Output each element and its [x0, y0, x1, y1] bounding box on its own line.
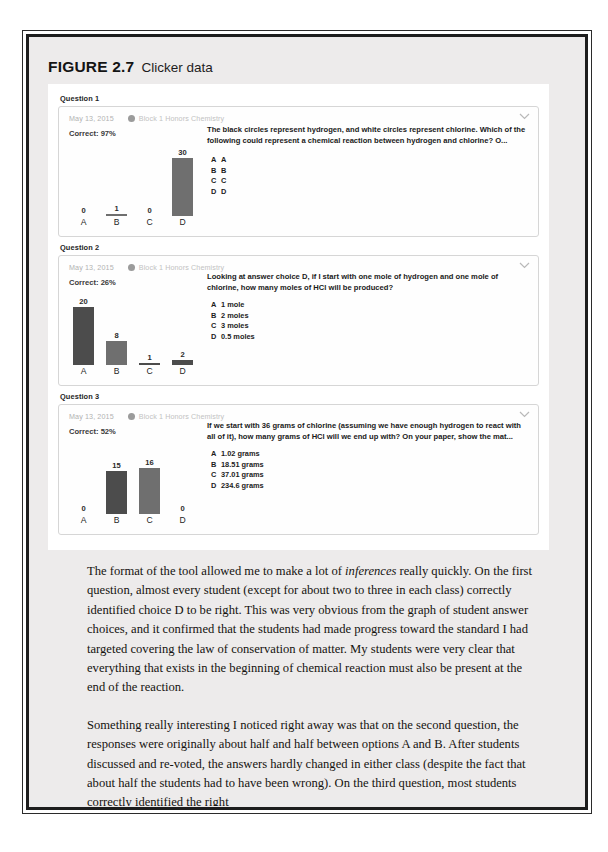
option-row: C C: [211, 176, 526, 187]
option-row: A A: [211, 155, 526, 166]
class-color-dot-icon: [128, 413, 135, 420]
bar-value: 1: [114, 204, 118, 213]
chart-bars: 20 8 1 2: [67, 293, 199, 365]
bar-rect: [139, 363, 160, 365]
option-row: B 2 moles: [211, 311, 526, 322]
question-prompt: Looking at answer choice D, if I start w…: [207, 272, 526, 293]
response-bar-chart: 0 15 16 0: [67, 442, 199, 528]
bar-rect: [172, 158, 193, 216]
paragraph-1: The format of the tool allowed me to mak…: [87, 562, 535, 698]
paragraph-1-part-a: The format of the tool allowed me to mak…: [87, 564, 345, 578]
bar-column: 0: [67, 144, 100, 216]
option-letter: B: [211, 311, 221, 322]
correct-percentage: Correct: 26%: [69, 278, 116, 287]
option-text: 3 moles: [221, 321, 249, 332]
card-class-name: Block 1 Honors Chemistry: [139, 263, 224, 272]
body-text: The format of the tool allowed me to mak…: [87, 562, 535, 806]
class-color-dot-icon: [128, 115, 135, 122]
axis-label: C: [133, 366, 166, 379]
bar-column: 2: [166, 293, 199, 365]
option-letter: D: [211, 332, 221, 343]
question-block: Question 2 May 13, 2015 Block 1 Honors C…: [58, 243, 539, 386]
axis-label: A: [67, 515, 100, 528]
bar-value: 2: [180, 350, 184, 359]
option-letter: B: [211, 166, 221, 177]
bar-rect: [106, 214, 127, 216]
response-bar-chart: 0 1 0 30: [67, 144, 199, 230]
option-text: A: [221, 155, 226, 166]
card-meta: May 13, 2015 Block 1 Honors Chemistry: [69, 412, 224, 421]
bar-value: 8: [114, 331, 118, 340]
bar-column: 0: [166, 442, 199, 514]
option-text: 1.02 grams: [221, 449, 260, 460]
option-row: C 37.01 grams: [211, 470, 526, 481]
emphasis-inferences: inferences: [345, 564, 396, 578]
option-text: 18.51 grams: [221, 460, 264, 471]
bar-value: 30: [178, 148, 186, 157]
option-letter: B: [211, 460, 221, 471]
chart-axis-labels: A B C D: [67, 366, 199, 379]
bar-column: 30: [166, 144, 199, 216]
bar-column: 0: [133, 144, 166, 216]
option-text: 37.01 grams: [221, 470, 264, 481]
option-text: 0.5 moles: [221, 332, 255, 343]
option-row: D 0.5 moles: [211, 332, 526, 343]
axis-label: D: [166, 217, 199, 230]
bar-value: 15: [112, 461, 120, 470]
question-options: A A B B C C D D: [211, 155, 526, 197]
bar-rect: [73, 307, 94, 365]
card-date: May 13, 2015: [69, 412, 114, 421]
bar-rect: [106, 341, 127, 365]
bar-column: 8: [100, 293, 133, 365]
bar-column: 1: [133, 293, 166, 365]
paragraph-2: Something really interesting I noticed r…: [87, 716, 535, 806]
question-block: Question 3 May 13, 2015 Block 1 Honors C…: [58, 392, 539, 535]
question-options: A 1.02 grams B 18.51 grams C 37.01 grams: [211, 449, 526, 491]
option-text: 234.6 grams: [221, 481, 264, 492]
clicker-card[interactable]: May 13, 2015 Block 1 Honors Chemistry Co…: [58, 404, 539, 535]
figure-caption: FIGURE 2.7Clicker data: [48, 58, 548, 76]
paragraph-1-part-b: really quickly. On the first question, a…: [87, 564, 532, 694]
bar-column: 1: [100, 144, 133, 216]
axis-label: B: [100, 366, 133, 379]
option-text: 2 moles: [221, 311, 249, 322]
bar-value: 0: [180, 504, 184, 513]
question-label: Question 2: [60, 243, 539, 252]
bar-value: 1: [147, 353, 151, 362]
option-row: A 1 mole: [211, 300, 526, 311]
clicker-card[interactable]: May 13, 2015 Block 1 Honors Chemistry Co…: [58, 255, 539, 386]
chevron-down-icon[interactable]: [519, 262, 530, 269]
bar-value: 20: [79, 297, 87, 306]
figure-number: FIGURE 2.7: [48, 58, 134, 75]
bar-column: 16: [133, 442, 166, 514]
option-letter: C: [211, 176, 221, 187]
option-letter: C: [211, 321, 221, 332]
chevron-down-icon[interactable]: [519, 113, 530, 120]
question-prompt: The black circles represent hydrogen, an…: [207, 125, 526, 146]
option-row: D 234.6 grams: [211, 481, 526, 492]
question-prompt: If we start with 36 grams of chlorine (a…: [207, 421, 526, 442]
page-scan: FIGURE 2.7Clicker data Question 1 May 13…: [0, 0, 608, 852]
class-color-dot-icon: [128, 264, 135, 271]
option-letter: A: [211, 155, 221, 166]
bar-column: 15: [100, 442, 133, 514]
figure-title: Clicker data: [141, 60, 212, 75]
correct-percentage: Correct: 52%: [69, 427, 116, 436]
bar-column: 20: [67, 293, 100, 365]
question-label: Question 1: [60, 94, 539, 103]
axis-label: B: [100, 217, 133, 230]
option-row: B 18.51 grams: [211, 460, 526, 471]
question-label: Question 3: [60, 392, 539, 401]
axis-label: C: [133, 515, 166, 528]
axis-label: B: [100, 515, 133, 528]
chart-bars: 0 15 16 0: [67, 442, 199, 514]
card-class-name: Block 1 Honors Chemistry: [139, 412, 224, 421]
figure-image-area: Question 1 May 13, 2015 Block 1 Honors C…: [48, 84, 549, 550]
card-class-name: Block 1 Honors Chemistry: [139, 114, 224, 123]
clicker-card[interactable]: May 13, 2015 Block 1 Honors Chemistry Co…: [58, 106, 539, 237]
chevron-down-icon[interactable]: [519, 411, 530, 418]
bar-rect: [106, 471, 127, 514]
option-text: 1 mole: [221, 300, 244, 311]
bar-rect: [172, 360, 193, 365]
option-row: B B: [211, 166, 526, 177]
